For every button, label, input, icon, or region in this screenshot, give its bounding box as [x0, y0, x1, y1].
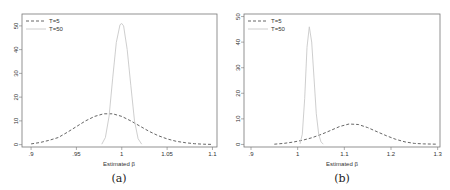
- y-tick-label: 20: [235, 89, 241, 96]
- x-tick-label: 1.2: [387, 151, 396, 157]
- x-tick-label: .9: [29, 151, 35, 157]
- legend-label: T=50: [49, 26, 64, 32]
- y-tick-label: 20: [13, 93, 19, 100]
- series-a: [31, 24, 212, 145]
- y-tick-label: 10: [13, 117, 19, 124]
- x-tick-label: 1.3: [433, 151, 442, 157]
- legend-label: T=5: [49, 18, 60, 24]
- y-axis-b: 01020304050: [235, 13, 244, 147]
- plot-frame-a: [22, 14, 217, 147]
- x-tick-label: .95: [72, 151, 81, 157]
- y-tick-label: 0: [13, 142, 19, 146]
- panel-b: 01020304050 .911.11.21.3 T=5T=50 Estimat…: [235, 13, 443, 185]
- y-axis-a: 01020304050: [13, 22, 22, 146]
- series-b: [274, 27, 437, 144]
- plot-frame-b: [244, 14, 440, 147]
- figure: 01020304050 .9.9511.051.1 T=5T=50 Estima…: [0, 0, 450, 190]
- panel-a: 01020304050 .9.9511.051.1 T=5T=50 Estima…: [13, 14, 218, 185]
- x-tick-label: 1.1: [340, 151, 349, 157]
- x-tick-label: 1.1: [208, 151, 217, 157]
- y-tick-label: 50: [13, 22, 19, 29]
- legend-label: T=5: [271, 18, 282, 24]
- x-axis-b: .911.11.21.3: [248, 147, 442, 157]
- legend-a: T=5T=50: [26, 18, 64, 32]
- x-axis-title-b: Estimated β: [326, 161, 358, 167]
- y-tick-label: 30: [13, 69, 19, 76]
- caption-b: (b): [334, 172, 350, 185]
- x-axis-a: .9.9511.051.1: [29, 147, 218, 157]
- series-line-t50: [102, 24, 142, 145]
- x-axis-title-a: Estimated β: [103, 161, 135, 167]
- caption-a: (a): [111, 172, 126, 185]
- x-tick-label: 1: [120, 151, 124, 157]
- series-line-t50: [300, 27, 323, 144]
- series-line-t5: [274, 124, 437, 144]
- y-tick-label: 40: [13, 46, 19, 53]
- series-line-t5: [31, 114, 212, 145]
- x-tick-label: .9: [248, 151, 254, 157]
- x-tick-label: 1.05: [161, 151, 173, 157]
- x-tick-label: 1: [296, 151, 300, 157]
- y-tick-label: 10: [235, 115, 241, 122]
- y-tick-label: 50: [235, 13, 241, 20]
- legend-label: T=50: [271, 26, 286, 32]
- y-tick-label: 40: [235, 38, 241, 45]
- y-tick-label: 0: [235, 142, 241, 146]
- legend-b: T=5T=50: [248, 18, 286, 32]
- y-tick-label: 30: [235, 64, 241, 71]
